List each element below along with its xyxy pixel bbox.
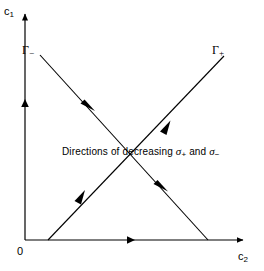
caption-conjunction: and bbox=[186, 146, 209, 157]
x-axis-label: c2 bbox=[238, 251, 248, 264]
y-axis-mid-arrow-icon bbox=[21, 99, 29, 107]
gamma-minus-label: Γ− bbox=[22, 44, 34, 58]
caption-text: Directions of decreasing σ+ and σ− bbox=[62, 146, 220, 159]
x-axis bbox=[25, 236, 243, 244]
gamma-plus-label-base: Γ bbox=[212, 43, 219, 57]
caption-prefix: Directions of decreasing bbox=[62, 146, 176, 157]
diagram-svg bbox=[0, 0, 264, 271]
gamma-minus-label-base: Γ bbox=[22, 43, 29, 57]
x-axis-label-subscript: 2 bbox=[244, 255, 248, 264]
figure-canvas: c1 c2 0 Γ− Γ+ Directions of decreasing σ… bbox=[0, 0, 264, 271]
gamma-plus-arrow-icon-2 bbox=[160, 121, 171, 136]
origin-label: 0 bbox=[17, 246, 23, 257]
gamma-plus-label-sign: + bbox=[219, 48, 224, 58]
gamma-plus-label: Γ+ bbox=[212, 44, 224, 58]
y-axis-label: c1 bbox=[4, 6, 14, 19]
x-axis-mid-arrow-icon bbox=[127, 236, 135, 244]
y-axis-label-subscript: 1 bbox=[10, 10, 14, 19]
gamma-minus-label-sign: − bbox=[29, 48, 34, 58]
caption-sigma-minus-sign: − bbox=[215, 150, 220, 159]
